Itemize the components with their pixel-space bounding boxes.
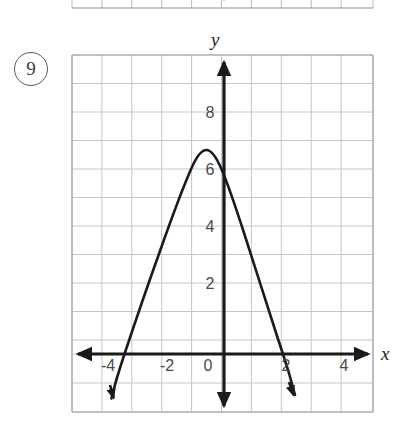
previous-problem-grid-fragment	[72, 0, 373, 8]
x-tick-label-4: 4	[336, 357, 352, 375]
y-axis-label: y	[211, 29, 219, 51]
problem-number: 9	[14, 52, 48, 86]
y-tick-label-4: 4	[202, 218, 218, 236]
x-axis-label: x	[381, 343, 389, 365]
x-tick-label-neg2: -2	[155, 357, 179, 375]
y-tick-label-6: 6	[202, 161, 218, 179]
x-tick-label-neg4: -4	[96, 357, 120, 375]
worksheet-page: 9 y x -4 -2 0 2 4 8 6 4 2	[0, 0, 415, 436]
x-tick-label-zero: 0	[200, 357, 216, 375]
y-tick-label-8: 8	[202, 104, 218, 122]
x-tick-label-2: 2	[278, 357, 294, 375]
y-tick-label-2: 2	[202, 275, 218, 293]
